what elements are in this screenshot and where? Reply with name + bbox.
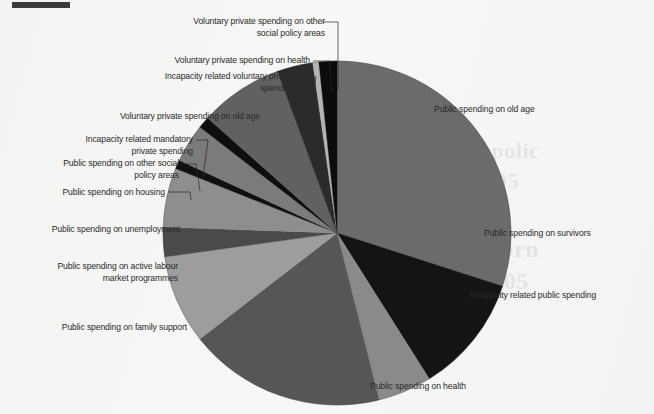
pie-chart-figure: social polic and 2005 ent inforn and 200… bbox=[0, 0, 654, 414]
slice-label-incapacity-voluntary: Incapacity related voluntary private spe… bbox=[95, 71, 294, 94]
pie-chart-svg bbox=[0, 0, 654, 414]
slice-label-voluntary-old-age: Voluntary private spending on old age bbox=[60, 111, 260, 123]
slice-label-incapacity-public: Incapacity related public spending bbox=[470, 290, 654, 302]
slice-label-public-health: Public spending on health bbox=[370, 381, 540, 393]
slice-label-public-unemployment: Public spending on unemployment bbox=[28, 224, 180, 236]
slice-label-public-other-social: Public spending on other social policy a… bbox=[35, 158, 179, 181]
slice-label-public-family: Public spending on family support bbox=[45, 322, 187, 334]
slice-label-public-housing: Public spending on housing bbox=[35, 187, 165, 199]
slice-label-voluntary-health: Voluntary private spending on health bbox=[110, 55, 310, 67]
slice-label-voluntary-other-social: Voluntary private spending on other soci… bbox=[120, 16, 325, 39]
slice-label-public-old-age: Public spending on old age bbox=[434, 104, 614, 116]
slice-label-incapacity-mandatory: Incapacity related mandatory private spe… bbox=[45, 134, 193, 157]
slice-label-public-survivors: Public spending on survivors bbox=[484, 228, 654, 240]
slice-label-public-almp: Public spending on active labour market … bbox=[38, 261, 178, 284]
